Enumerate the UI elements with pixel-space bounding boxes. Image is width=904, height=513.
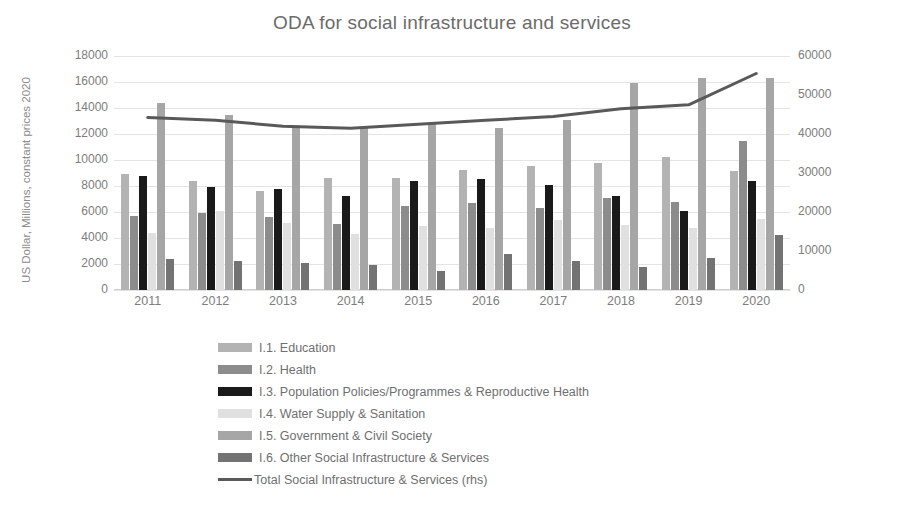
total-line-series xyxy=(114,56,790,290)
legend-item-label: I.4. Water Supply & Sanitation xyxy=(259,407,425,421)
legend-item[interactable]: I.6. Other Social Infrastructure & Servi… xyxy=(218,448,688,467)
y-axis-left-tick: 10000 xyxy=(52,152,108,166)
legend-item-total-line[interactable]: Total Social Infrastructure & Services (… xyxy=(218,470,688,489)
legend-swatch-icon xyxy=(218,453,252,462)
x-axis-tick-label: 2016 xyxy=(452,294,520,308)
x-axis-labels: 2011201220132014201520162017201820192020 xyxy=(114,294,790,316)
chart-title: ODA for social infrastructure and servic… xyxy=(0,12,904,34)
x-axis-tick-label: 2019 xyxy=(655,294,723,308)
y-axis-left-tick: 0 xyxy=(52,282,108,296)
y-axis-left-tick: 12000 xyxy=(52,126,108,140)
y-axis-right-ticks: 0100002000030000400005000060000 xyxy=(798,56,868,290)
legend-item-label: I.5. Government & Civil Society xyxy=(259,429,432,443)
y-axis-left-tick: 6000 xyxy=(52,204,108,218)
x-axis-tick-label: 2011 xyxy=(114,294,182,308)
x-axis-tick-label: 2020 xyxy=(722,294,790,308)
y-axis-left-tick: 4000 xyxy=(52,230,108,244)
legend-line-icon xyxy=(218,478,252,481)
legend-swatch-icon xyxy=(218,409,252,418)
legend-swatch-icon xyxy=(218,365,252,374)
legend-item-label: I.6. Other Social Infrastructure & Servi… xyxy=(259,451,489,465)
y-axis-left-tick: 18000 xyxy=(52,48,108,62)
y-axis-right-tick: 60000 xyxy=(798,48,862,62)
legend-swatch-icon xyxy=(218,387,252,396)
legend-item[interactable]: I.4. Water Supply & Sanitation xyxy=(218,404,688,423)
y-axis-left-tick: 16000 xyxy=(52,74,108,88)
y-axis-right-tick: 40000 xyxy=(798,126,862,140)
y-axis-right-tick: 30000 xyxy=(798,165,862,179)
y-axis-right-tick: 50000 xyxy=(798,87,862,101)
legend-swatch-icon xyxy=(218,431,252,440)
chart-container: ODA for social infrastructure and servic… xyxy=(0,0,904,513)
chart-legend: I.1. EducationI.2. HealthI.3. Population… xyxy=(218,338,688,489)
legend-item-label: Total Social Infrastructure & Services (… xyxy=(254,473,487,487)
legend-item-label: I.2. Health xyxy=(259,363,316,377)
y-axis-left-tick: 14000 xyxy=(52,100,108,114)
y-axis-left-title: US Dollar, Millions, constant prices 202… xyxy=(20,50,32,310)
y-axis-left-tick: 8000 xyxy=(52,178,108,192)
legend-item-label: I.3. Population Policies/Programmes & Re… xyxy=(259,385,589,399)
legend-swatch-icon xyxy=(218,343,252,352)
x-axis-tick-label: 2017 xyxy=(520,294,588,308)
total-line-path xyxy=(148,74,756,129)
legend-item-label: I.1. Education xyxy=(259,341,335,355)
gridline xyxy=(114,290,790,291)
legend-item[interactable]: I.2. Health xyxy=(218,360,688,379)
y-axis-right-tick: 20000 xyxy=(798,204,862,218)
legend-item[interactable]: I.5. Government & Civil Society xyxy=(218,426,688,445)
y-axis-left-ticks: 0200040006000800010000120001400016000180… xyxy=(46,56,108,290)
x-axis-tick-label: 2018 xyxy=(587,294,655,308)
x-axis-tick-label: 2015 xyxy=(384,294,452,308)
x-axis-tick-label: 2012 xyxy=(182,294,250,308)
x-axis-tick-label: 2013 xyxy=(249,294,317,308)
x-axis-tick-label: 2014 xyxy=(317,294,385,308)
y-axis-right-tick: 10000 xyxy=(798,243,862,257)
legend-item[interactable]: I.3. Population Policies/Programmes & Re… xyxy=(218,382,688,401)
y-axis-left-tick: 2000 xyxy=(52,256,108,270)
legend-item[interactable]: I.1. Education xyxy=(218,338,688,357)
y-axis-right-tick: 0 xyxy=(798,282,862,296)
